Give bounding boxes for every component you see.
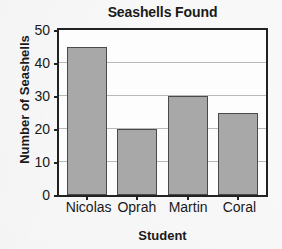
y-axis-tick-label: 50	[34, 22, 50, 38]
x-axis-tick-label: Oprah	[117, 199, 157, 215]
bar-slot	[117, 30, 157, 195]
x-axis-title: Student	[57, 228, 268, 243]
bar-series	[59, 30, 266, 195]
y-axis-tick-label: 30	[34, 88, 50, 104]
y-axis-tick-label: 20	[34, 121, 50, 137]
y-axis-tick-label: 10	[34, 154, 50, 170]
bar-coral[interactable]	[218, 113, 258, 196]
bar-slot	[218, 30, 258, 195]
bar-martin[interactable]	[168, 96, 208, 195]
bar-slot	[168, 30, 208, 195]
x-axis-tick-label: Coral	[219, 199, 259, 215]
y-axis-tick-label: 0	[42, 187, 50, 203]
x-axis-tick-labels: NicolasOprahMartinCoral	[57, 199, 268, 215]
bar-oprah[interactable]	[117, 129, 157, 195]
y-axis-tick-label: 40	[34, 55, 50, 71]
y-axis-tick-mark	[54, 195, 59, 197]
bar-nicolas[interactable]	[67, 47, 107, 196]
y-axis-title: Number of Seashells	[17, 15, 32, 185]
plot-area: 01020304050	[57, 28, 268, 197]
x-axis-tick-label: Nicolas	[66, 199, 106, 215]
x-axis-tick-label: Martin	[168, 199, 208, 215]
bar-slot	[67, 30, 107, 195]
chart-title: Seashells Found	[57, 4, 268, 20]
bar-chart: Seashells Found Number of Seashells 0102…	[0, 0, 282, 249]
